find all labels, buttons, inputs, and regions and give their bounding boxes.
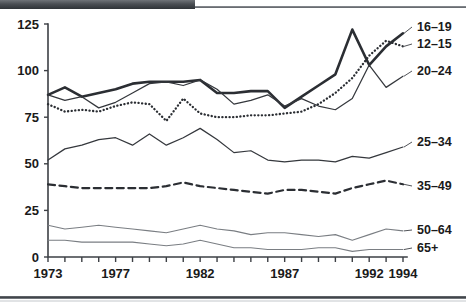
- series-line-50-64: [48, 225, 403, 240]
- legend-leader-line: [404, 248, 412, 250]
- y-tick-label: 50: [25, 156, 39, 171]
- legend-leader-line: [404, 142, 412, 147]
- x-tick-label: 1992: [355, 266, 384, 281]
- y-tick-label: 100: [17, 63, 39, 78]
- page-edge-bottom-highlight: [0, 300, 466, 302]
- y-tick-label: 0: [32, 250, 39, 265]
- x-axis-tick-labels: 197319771982198719921994: [34, 266, 419, 281]
- x-tick-label: 1982: [186, 266, 215, 281]
- legend-label: 20–24: [417, 64, 452, 78]
- x-tick-label: 1987: [270, 266, 299, 281]
- legend-label: 16–19: [417, 20, 452, 34]
- legend-entry: 50–64: [404, 223, 452, 237]
- y-tick-label: 75: [25, 110, 39, 125]
- legend-label: 65+: [417, 241, 438, 255]
- legend-label: 35–49: [417, 179, 452, 193]
- legend-leader-line: [404, 71, 412, 76]
- legend-label: 25–34: [417, 135, 452, 149]
- y-tick-label: 25: [25, 203, 39, 218]
- legend-leader-line: [404, 184, 412, 186]
- series-line-25-34: [48, 128, 403, 162]
- figure-stage: 0255075100125 197319771982198719921994 1…: [0, 0, 466, 307]
- chart-legend: 16–1912–1520–2425–3435–4950–6465+: [404, 20, 452, 255]
- y-tick-label: 125: [17, 17, 39, 32]
- legend-entry: 65+: [404, 241, 438, 255]
- legend-leader-line: [404, 230, 412, 231]
- page-edge-bottom-decoration: [0, 296, 466, 299]
- chart-series-group: [48, 30, 403, 252]
- line-chart: 0255075100125 197319771982198719921994 1…: [0, 0, 466, 307]
- legend-entry: 25–34: [404, 135, 452, 149]
- x-tick-label: 1973: [34, 266, 63, 281]
- legend-label: 50–64: [417, 223, 452, 237]
- legend-entry: 20–24: [404, 64, 452, 78]
- legend-entry: 12–15: [404, 37, 452, 51]
- chart-axes: [44, 24, 407, 262]
- series-line-20-24: [48, 65, 403, 110]
- legend-leader-line: [404, 44, 412, 46]
- legend-entry: 16–19: [404, 20, 452, 34]
- legend-label: 12–15: [417, 37, 452, 51]
- series-line-65: [48, 240, 403, 251]
- x-tick-label: 1977: [101, 266, 130, 281]
- legend-leader-line: [404, 27, 412, 33]
- series-line-12-15: [48, 41, 403, 121]
- y-axis-tick-labels: 0255075100125: [17, 17, 39, 265]
- x-tick-label: 1994: [389, 266, 419, 281]
- series-line-35-49: [48, 181, 403, 194]
- legend-entry: 35–49: [404, 179, 452, 193]
